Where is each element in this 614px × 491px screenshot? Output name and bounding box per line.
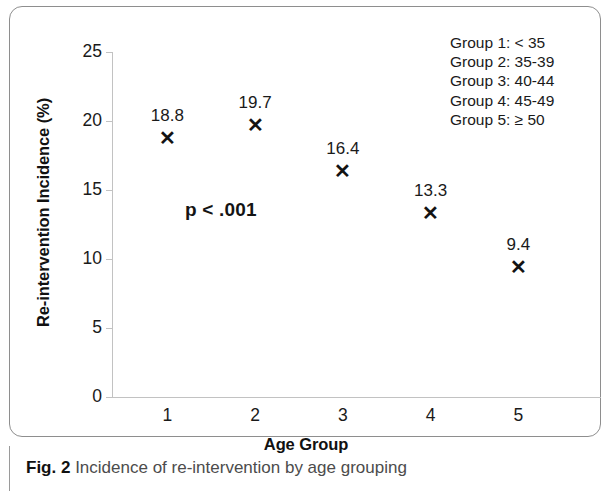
y-axis-tick-mark xyxy=(106,52,112,53)
x-axis-tick-label: 5 xyxy=(514,407,524,425)
legend-entry: Group 1: < 35 xyxy=(450,33,554,52)
x-axis-tick-label: 2 xyxy=(250,407,260,425)
caption-rule xyxy=(9,446,10,491)
y-axis-tick-mark xyxy=(106,259,112,260)
y-axis-tick-mark xyxy=(106,328,112,329)
legend-entry: Group 3: 40-44 xyxy=(450,71,554,90)
y-axis-tick-mark xyxy=(106,121,112,122)
y-axis-tick-label: 20 xyxy=(56,112,102,130)
figure-caption-label: Fig. 2 xyxy=(26,458,70,477)
data-point-label: 13.3 xyxy=(414,182,447,199)
p-value-annotation: p < .001 xyxy=(185,199,257,221)
legend-entry: Group 4: 45-49 xyxy=(450,91,554,110)
y-axis-tick-label: 0 xyxy=(56,388,102,406)
x-axis-tick-label: 4 xyxy=(426,407,436,425)
data-point-label: 9.4 xyxy=(507,236,531,253)
figure-caption: Fig. 2 Incidence of re-intervention by a… xyxy=(26,457,596,478)
chart-frame: Re-intervention Incidence (%) 2520151050… xyxy=(9,6,601,437)
data-point-marker: ✕ xyxy=(510,257,527,277)
data-point-label: 18.8 xyxy=(151,107,184,124)
data-point-marker: ✕ xyxy=(159,128,176,148)
x-axis-line xyxy=(112,397,601,398)
y-axis-tick-label: 25 xyxy=(56,43,102,61)
y-axis-tick-label: 5 xyxy=(56,319,102,337)
data-point-marker: ✕ xyxy=(247,115,264,135)
y-axis-tick-labels: 2520151050 xyxy=(50,7,102,438)
x-axis-tick-label: 1 xyxy=(163,407,173,425)
legend-entry: Group 2: 35-39 xyxy=(450,52,554,71)
data-point-label: 16.4 xyxy=(326,140,359,157)
chart-legend: Group 1: < 35Group 2: 35-39Group 3: 40-4… xyxy=(450,33,554,129)
legend-entry: Group 5: ≥ 50 xyxy=(450,110,554,129)
y-axis-tick-mark xyxy=(106,190,112,191)
y-axis-tick-label: 15 xyxy=(56,181,102,199)
y-axis-tick-mark xyxy=(106,397,112,398)
data-point-marker: ✕ xyxy=(334,161,351,181)
figure-caption-text: Incidence of re-intervention by age grou… xyxy=(75,458,407,477)
data-point-label: 19.7 xyxy=(239,94,272,111)
figure-root: Re-intervention Incidence (%) 2520151050… xyxy=(0,0,614,491)
x-axis-title: Age Group xyxy=(10,435,602,454)
y-axis-tick-label: 10 xyxy=(56,250,102,268)
data-point-marker: ✕ xyxy=(422,203,439,223)
x-axis-tick-label: 3 xyxy=(338,407,348,425)
